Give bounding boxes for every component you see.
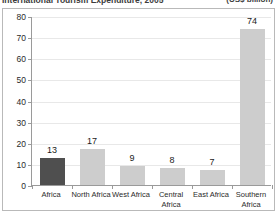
gridline bbox=[32, 80, 271, 81]
x-axis-category-label: Africa bbox=[31, 190, 71, 200]
bar-value-label: 74 bbox=[247, 16, 257, 26]
y-axis-tick bbox=[28, 80, 32, 81]
chart-header-strip: International Tourism Expenditure, 2005 … bbox=[0, 0, 277, 7]
bar-value-label: 8 bbox=[169, 155, 174, 165]
y-axis-label: 30 bbox=[17, 118, 26, 128]
x-axis-tick bbox=[272, 185, 273, 189]
chart-screenshot: International Tourism Expenditure, 2005 … bbox=[0, 0, 277, 218]
y-axis-tick bbox=[28, 38, 32, 39]
x-axis-category-label: West Africa bbox=[111, 190, 151, 200]
y-axis-tick bbox=[28, 102, 32, 103]
chart-title: International Tourism Expenditure, 2005 bbox=[2, 0, 163, 5]
y-axis-label: 60 bbox=[17, 54, 26, 64]
y-axis-tick bbox=[28, 165, 32, 166]
bar: 74 bbox=[240, 29, 265, 185]
x-axis-category-label: North Africa bbox=[71, 190, 111, 200]
bar: 17 bbox=[80, 149, 105, 185]
x-axis-category-label: Central Africa bbox=[151, 190, 191, 209]
bar: 8 bbox=[160, 168, 185, 185]
y-axis-label: 20 bbox=[17, 139, 26, 149]
x-axis-category-label: Southern Africa bbox=[231, 190, 271, 209]
y-axis-label: 50 bbox=[17, 75, 26, 85]
gridline bbox=[32, 102, 271, 103]
bar: 9 bbox=[120, 166, 145, 185]
x-axis-tick bbox=[232, 185, 233, 189]
plot-area: 01020304050607080131798774 bbox=[31, 17, 271, 186]
y-axis-tick bbox=[28, 123, 32, 124]
y-axis-label: 0 bbox=[21, 181, 26, 191]
bar: 13 bbox=[40, 158, 65, 185]
y-axis-label: 40 bbox=[17, 97, 26, 107]
x-axis-tick bbox=[72, 185, 73, 189]
bar: 7 bbox=[200, 170, 225, 185]
x-axis-category-label: East Africa bbox=[191, 190, 231, 200]
bar-value-label: 7 bbox=[209, 157, 214, 167]
x-axis-tick bbox=[112, 185, 113, 189]
y-axis-label: 10 bbox=[17, 160, 26, 170]
chart-frame: 01020304050607080131798774 AfricaNorth A… bbox=[2, 8, 275, 211]
y-axis-label: 70 bbox=[17, 33, 26, 43]
gridline bbox=[32, 144, 271, 145]
y-axis-tick bbox=[28, 59, 32, 60]
bar-value-label: 17 bbox=[87, 136, 97, 146]
gridline bbox=[32, 59, 271, 60]
y-axis-tick bbox=[28, 144, 32, 145]
y-axis-label: 80 bbox=[17, 12, 26, 22]
bar-value-label: 9 bbox=[129, 153, 134, 163]
y-axis-tick bbox=[28, 17, 32, 18]
gridline bbox=[32, 38, 271, 39]
gridline bbox=[32, 165, 271, 166]
gridline bbox=[32, 17, 271, 18]
x-axis-tick bbox=[32, 185, 33, 189]
x-axis-tick bbox=[152, 185, 153, 189]
gridline bbox=[32, 123, 271, 124]
bar-value-label: 13 bbox=[47, 145, 57, 155]
chart-unit-label: (US$ billion) bbox=[226, 0, 273, 4]
x-axis-tick bbox=[192, 185, 193, 189]
